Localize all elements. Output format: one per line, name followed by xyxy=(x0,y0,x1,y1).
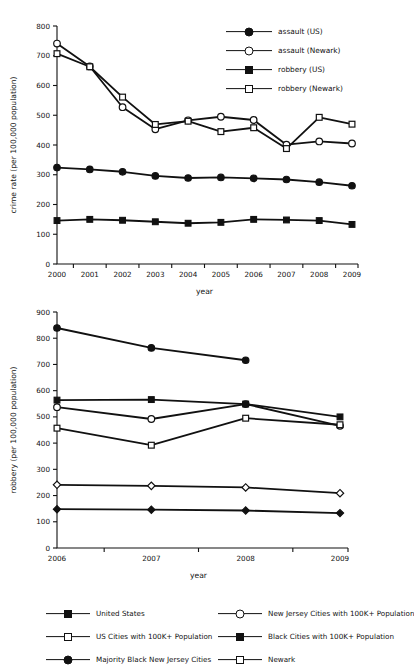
legend-item-majority-black-nj-cities: Majority Black New Jersey Cities xyxy=(0,650,196,669)
x-tick-label: 2007 xyxy=(277,270,295,279)
legend-item-black-cities-100k: Black Cities with 100K+ Population xyxy=(196,627,401,646)
diamond-open-icon xyxy=(46,631,90,643)
data-point xyxy=(54,218,60,224)
data-point xyxy=(283,176,290,183)
data-point xyxy=(337,422,343,428)
x-tick-label: 2003 xyxy=(146,270,164,279)
data-point xyxy=(152,122,158,128)
data-point xyxy=(218,113,225,120)
legend-item-newark: Newark xyxy=(196,650,401,669)
data-point xyxy=(152,219,158,225)
x-axis-title: year xyxy=(190,571,208,580)
x-tick-label: 2001 xyxy=(81,270,99,279)
data-point xyxy=(148,442,154,448)
y-tick-label: 700 xyxy=(36,360,50,369)
data-point xyxy=(148,397,154,403)
y-tick-label: 200 xyxy=(36,491,50,500)
y-tick-label: 300 xyxy=(36,170,50,179)
legend-label: New Jersey Cities with 100K+ Population xyxy=(268,610,414,617)
crime-rate-legend: assault (US) assault (Newark) robbery (U… xyxy=(226,22,343,98)
crime-rate-chart: 0100200300400500600700800200020012002200… xyxy=(0,0,401,300)
data-point xyxy=(284,146,290,152)
data-point xyxy=(218,174,225,181)
diamond-filled-icon xyxy=(46,608,90,620)
x-tick-label: 2004 xyxy=(179,270,198,279)
y-tick-label: 800 xyxy=(36,22,50,31)
legend-item-assault-us: assault (US) xyxy=(226,22,343,41)
y-tick-label: 0 xyxy=(45,544,50,553)
series-line xyxy=(57,219,352,224)
data-point xyxy=(120,94,126,100)
legend-label: Black Cities with 100K+ Population xyxy=(268,633,394,640)
data-point xyxy=(316,179,323,186)
legend-label: US Cities with 100K+ Population xyxy=(96,633,212,640)
circle-filled-icon xyxy=(226,26,272,38)
data-point xyxy=(54,51,60,57)
robbery-plot-area: 0100200300400500600700800900200620072008… xyxy=(0,292,401,582)
legend-label: Majority Black New Jersey Cities xyxy=(96,656,211,663)
y-axis-title: robbery (per 100,000 population) xyxy=(9,366,18,493)
y-tick-label: 800 xyxy=(36,334,50,343)
series-line xyxy=(57,418,340,445)
x-tick-label: 2005 xyxy=(212,270,230,279)
data-point xyxy=(316,138,323,145)
y-tick-label: 200 xyxy=(36,200,50,209)
y-tick-label: 100 xyxy=(36,517,50,526)
data-point xyxy=(218,129,224,135)
data-point xyxy=(119,168,126,175)
data-point xyxy=(152,173,159,180)
y-tick-label: 600 xyxy=(36,386,50,395)
legend-item-united-states: United States xyxy=(0,604,196,623)
data-point xyxy=(250,117,257,124)
data-point xyxy=(148,506,155,513)
x-tick-label: 2009 xyxy=(343,270,362,279)
y-tick-label: 500 xyxy=(36,412,50,421)
data-point xyxy=(316,218,322,224)
data-point xyxy=(185,175,192,182)
data-point xyxy=(243,401,249,407)
series-line xyxy=(57,168,352,186)
data-point xyxy=(54,325,61,332)
robbery-comparison-legend: United States New Jersey Cities with 100… xyxy=(0,604,401,669)
y-tick-label: 100 xyxy=(36,230,50,239)
data-point xyxy=(54,425,60,431)
data-point xyxy=(243,415,249,421)
x-tick-label: 2006 xyxy=(48,554,67,563)
circle-filled-icon xyxy=(46,654,90,666)
y-tick-label: 500 xyxy=(36,111,50,120)
data-point xyxy=(148,416,155,423)
legend-label: robbery (US) xyxy=(278,66,325,73)
x-tick-label: 2008 xyxy=(237,554,256,563)
series-line xyxy=(57,400,340,417)
square-filled-icon xyxy=(226,64,272,76)
data-point xyxy=(54,404,61,411)
x-tick-label: 2000 xyxy=(48,270,67,279)
data-point xyxy=(242,484,249,491)
data-point xyxy=(316,114,322,120)
y-tick-label: 300 xyxy=(36,465,50,474)
data-point xyxy=(349,182,356,189)
robbery-comparison-chart: 0100200300400500600700800900200620072008… xyxy=(0,292,401,582)
data-point xyxy=(87,216,93,222)
legend-item-robbery-newark: robbery (Newark) xyxy=(226,79,343,98)
legend-item-nj-cities-100k: New Jersey Cities with 100K+ Population xyxy=(196,604,401,623)
data-point xyxy=(251,216,257,222)
legend-item-us-cities-100k: US Cities with 100K+ Population xyxy=(0,627,196,646)
data-point xyxy=(119,104,126,111)
legend-label: robbery (Newark) xyxy=(278,85,343,92)
data-point xyxy=(120,217,126,223)
x-tick-label: 2009 xyxy=(331,554,350,563)
data-point xyxy=(218,219,224,225)
data-point xyxy=(250,175,257,182)
x-tick-label: 2006 xyxy=(245,270,264,279)
data-point xyxy=(54,164,61,171)
data-point xyxy=(53,481,60,488)
data-point xyxy=(86,166,93,173)
y-axis-title: crime rate (per 100,000 population) xyxy=(9,77,18,214)
data-point xyxy=(242,507,249,514)
y-tick-label: 0 xyxy=(45,260,50,269)
series-line xyxy=(57,485,340,493)
data-point xyxy=(337,414,343,420)
square-open-icon xyxy=(226,83,272,95)
